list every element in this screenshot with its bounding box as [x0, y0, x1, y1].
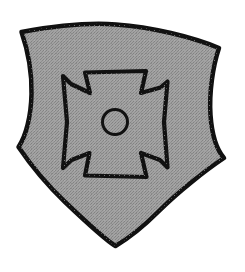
- center-roundel: [103, 110, 128, 135]
- shield-vector-graphic: [0, 0, 245, 272]
- shield-illustration-canvas: Shield charged with a cross pattee voide…: [0, 0, 245, 272]
